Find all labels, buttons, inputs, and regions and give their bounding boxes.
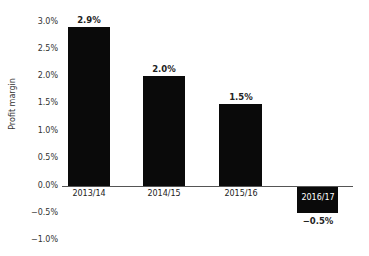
- category-label: 2015/16: [211, 189, 271, 198]
- bar-2015-16: [219, 104, 262, 186]
- bar-2014-15: [143, 76, 185, 186]
- bar-value-label: 2.0%: [134, 64, 194, 74]
- y-tick-neg-0-5: −0.5%: [20, 208, 58, 218]
- y-tick-1-5: 1.5%: [20, 98, 58, 108]
- x-axis-baseline: [62, 186, 353, 187]
- y-tick-0-0: 0.0%: [20, 181, 58, 191]
- y-tick-1-0: 1.0%: [20, 126, 58, 136]
- category-label: 2013/14: [59, 189, 119, 198]
- y-tick-2-5: 2.5%: [20, 44, 58, 54]
- bar-2013-14: [68, 27, 110, 186]
- y-axis-label: Profit margin: [8, 78, 17, 130]
- bar-value-label: −0.5%: [288, 216, 348, 226]
- profit-margin-bar-chart: Profit margin 3.0% 2.5% 2.0% 1.5% 1.0% 0…: [0, 0, 369, 256]
- y-tick-0-5: 0.5%: [20, 153, 58, 163]
- y-tick-neg-1-0: −1.0%: [20, 235, 58, 245]
- bar-value-label: 2.9%: [59, 15, 119, 25]
- y-tick-3-0: 3.0%: [20, 17, 58, 27]
- bar-value-label: 1.5%: [211, 92, 271, 102]
- category-label: 2014/15: [134, 189, 194, 198]
- y-tick-2-0: 2.0%: [20, 71, 58, 81]
- category-label: 2016/17: [288, 193, 348, 202]
